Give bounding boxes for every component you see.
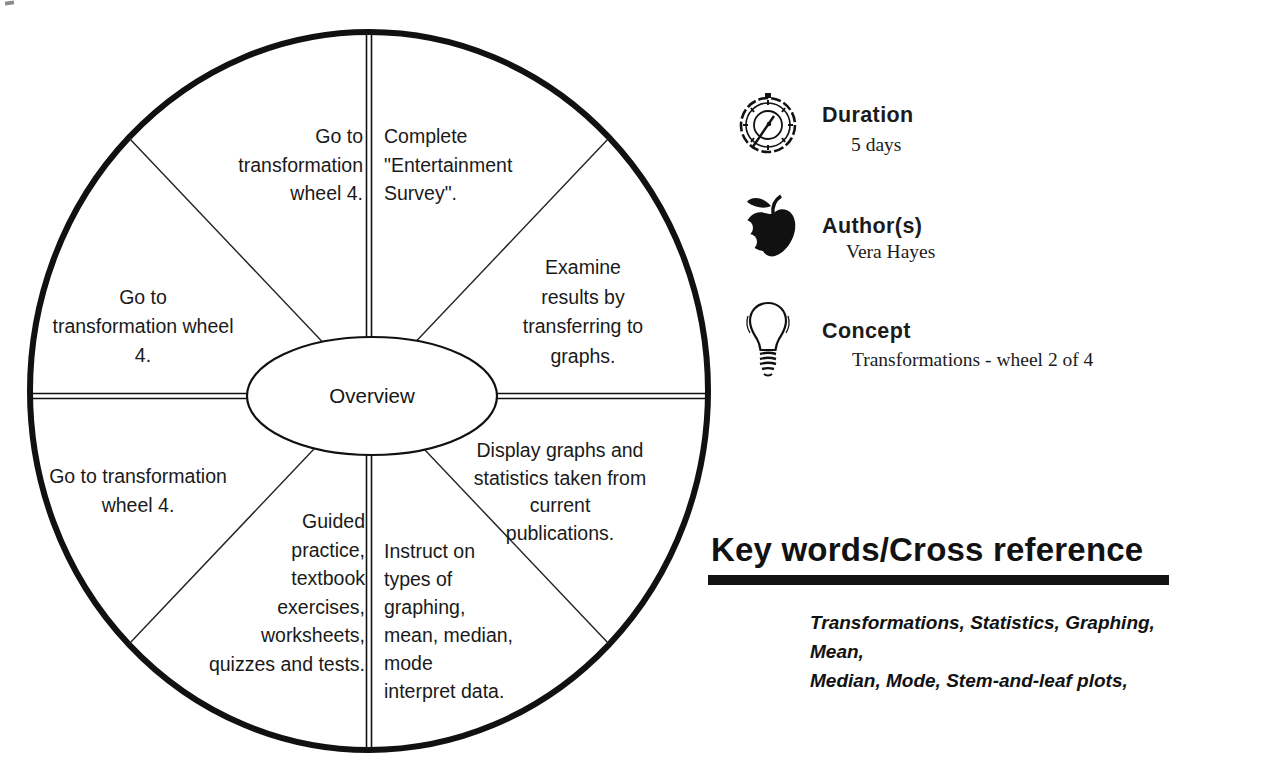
sector-bottom-right: Instruct on types of graphing, mean, med… (384, 537, 534, 705)
concept-value: Transformations - wheel 2 of 4 (852, 349, 1093, 371)
apple-icon (737, 188, 801, 272)
duration-label: Duration (822, 103, 914, 128)
sector-left-lower: Go to transformation wheel 4. (38, 462, 238, 520)
duration-value: 5 days (851, 134, 901, 156)
keywords-heading: Key words/Cross reference (711, 531, 1143, 569)
sector-top-right: Complete "Entertainment Survey". (384, 122, 544, 208)
sector-bottom-left: Guided practice, textbook exercises, wor… (185, 507, 365, 678)
overview-label: Overview (272, 384, 472, 408)
stopwatch-icon (736, 88, 800, 164)
lightbulb-icon (744, 298, 792, 386)
sector-top-left: Go to transformation wheel 4. (163, 122, 363, 208)
sector-left-upper: Go to transformation wheel 4. (43, 283, 243, 370)
keywords-underline-bar (708, 575, 1169, 585)
sector-right-lower: Display graphs and statistics taken from… (450, 437, 670, 547)
concept-label: Concept (822, 319, 911, 344)
authors-label: Author(s) (822, 214, 922, 239)
page: Go to transformation wheel 4. Complete "… (0, 0, 1283, 775)
authors-value: Vera Hayes (846, 241, 935, 263)
keywords-text: Transformations, Statistics, Graphing, M… (810, 608, 1180, 695)
sector-right-upper: Examine results by transferring to graph… (483, 253, 683, 371)
